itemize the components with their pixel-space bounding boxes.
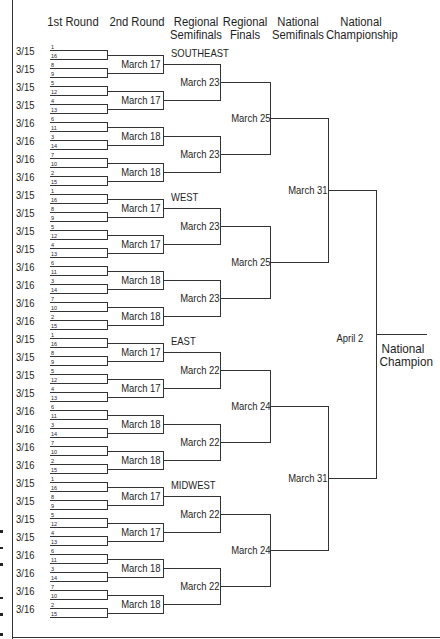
seed-number: 5 bbox=[51, 224, 54, 230]
seed-number: 5 bbox=[51, 80, 54, 86]
first-round-date: 3/15 bbox=[16, 351, 39, 363]
first-round-date: 3/16 bbox=[16, 153, 39, 165]
seed-number: 11 bbox=[51, 413, 57, 419]
seed-number: 13 bbox=[51, 251, 57, 257]
first-round-date: 3/16 bbox=[16, 459, 39, 471]
regional-final-date: March 24 bbox=[231, 400, 270, 412]
regional-semifinal-date: March 23 bbox=[180, 76, 219, 88]
first-round-date: 3/15 bbox=[16, 63, 39, 75]
seed-number: 1 bbox=[51, 188, 54, 194]
edge-artifact bbox=[0, 633, 3, 636]
seed-number: 6 bbox=[51, 548, 54, 554]
seed-number: 7 bbox=[51, 152, 54, 158]
first-round-date: 3/16 bbox=[16, 171, 39, 183]
regional-final-date: March 25 bbox=[231, 112, 270, 124]
seed-number: 3 bbox=[51, 278, 54, 284]
bracket-lines bbox=[0, 0, 440, 639]
seed-number: 9 bbox=[51, 359, 54, 365]
seed-number: 15 bbox=[51, 179, 57, 185]
regional-semifinal-date: March 22 bbox=[180, 436, 219, 448]
national-semifinal-date: March 31 bbox=[288, 472, 327, 484]
second-round-date: March 18 bbox=[121, 274, 160, 286]
regional-semifinal-date: March 23 bbox=[180, 220, 219, 232]
second-round-date: March 18 bbox=[121, 166, 160, 178]
seed-number: 11 bbox=[51, 269, 57, 275]
regional-semifinal-date: March 23 bbox=[180, 292, 219, 304]
seed-number: 7 bbox=[51, 440, 54, 446]
seed-number: 10 bbox=[51, 449, 57, 455]
seed-number: 14 bbox=[51, 143, 57, 149]
first-round-date: 3/15 bbox=[16, 243, 39, 255]
first-round-date: 3/15 bbox=[16, 81, 39, 93]
seed-number: 14 bbox=[51, 575, 57, 581]
seed-number: 11 bbox=[51, 125, 57, 131]
seed-number: 9 bbox=[51, 503, 54, 509]
seed-number: 8 bbox=[51, 494, 54, 500]
first-round-date: 3/16 bbox=[16, 135, 39, 147]
seed-number: 2 bbox=[51, 170, 54, 176]
seed-number: 16 bbox=[51, 341, 57, 347]
seed-number: 12 bbox=[51, 233, 57, 239]
regional-semifinal-date: March 22 bbox=[180, 508, 219, 520]
first-round-date: 3/15 bbox=[16, 495, 39, 507]
first-round-date: 3/15 bbox=[16, 207, 39, 219]
second-round-date: March 18 bbox=[121, 598, 160, 610]
seed-number: 11 bbox=[51, 557, 57, 563]
seed-number: 2 bbox=[51, 314, 54, 320]
seed-number: 6 bbox=[51, 116, 54, 122]
first-round-date: 3/15 bbox=[16, 513, 39, 525]
regional-final-date: March 24 bbox=[231, 544, 270, 556]
region-name: EAST bbox=[171, 335, 196, 347]
first-round-date: 3/15 bbox=[16, 189, 39, 201]
seed-number: 4 bbox=[51, 242, 54, 248]
seed-number: 9 bbox=[51, 215, 54, 221]
seed-number: 8 bbox=[51, 350, 54, 356]
second-round-date: March 18 bbox=[121, 454, 160, 466]
second-round-date: March 18 bbox=[121, 562, 160, 574]
second-round-date: March 18 bbox=[121, 130, 160, 142]
edge-artifact bbox=[0, 613, 3, 616]
seed-number: 4 bbox=[51, 98, 54, 104]
seed-number: 13 bbox=[51, 395, 57, 401]
first-round-date: 3/16 bbox=[16, 441, 39, 453]
edge-artifact bbox=[0, 547, 3, 549]
seed-number: 7 bbox=[51, 296, 54, 302]
seed-number: 10 bbox=[51, 305, 57, 311]
first-round-date: 3/15 bbox=[16, 531, 39, 543]
regional-final-date: March 25 bbox=[231, 256, 270, 268]
seed-number: 3 bbox=[51, 134, 54, 140]
seed-number: 5 bbox=[51, 368, 54, 374]
seed-number: 16 bbox=[51, 53, 57, 59]
region-name: SOUTHEAST bbox=[171, 47, 229, 59]
first-round-date: 3/15 bbox=[16, 369, 39, 381]
first-round-date: 3/15 bbox=[16, 45, 39, 57]
seed-number: 16 bbox=[51, 197, 57, 203]
first-round-date: 3/16 bbox=[16, 405, 39, 417]
seed-number: 14 bbox=[51, 431, 57, 437]
seed-number: 8 bbox=[51, 62, 54, 68]
seed-number: 1 bbox=[51, 476, 54, 482]
first-round-date: 3/16 bbox=[16, 261, 39, 273]
first-round-date: 3/16 bbox=[16, 603, 39, 615]
edge-artifact bbox=[0, 597, 3, 599]
seed-number: 10 bbox=[51, 161, 57, 167]
seed-number: 16 bbox=[51, 485, 57, 491]
seed-number: 13 bbox=[51, 539, 57, 545]
second-round-date: March 17 bbox=[121, 238, 160, 250]
seed-number: 1 bbox=[51, 44, 54, 50]
seed-number: 13 bbox=[51, 107, 57, 113]
seed-number: 15 bbox=[51, 611, 57, 617]
seed-number: 2 bbox=[51, 458, 54, 464]
seed-number: 2 bbox=[51, 602, 54, 608]
national-champion-line2: Champion bbox=[380, 355, 427, 368]
seed-number: 9 bbox=[51, 71, 54, 77]
first-round-date: 3/16 bbox=[16, 423, 39, 435]
seed-number: 5 bbox=[51, 512, 54, 518]
championship-date: April 2 bbox=[336, 332, 363, 344]
first-round-date: 3/16 bbox=[16, 297, 39, 309]
first-round-date: 3/15 bbox=[16, 477, 39, 489]
second-round-date: March 17 bbox=[121, 382, 160, 394]
first-round-date: 3/16 bbox=[16, 567, 39, 579]
second-round-date: March 17 bbox=[121, 202, 160, 214]
seed-number: 4 bbox=[51, 530, 54, 536]
